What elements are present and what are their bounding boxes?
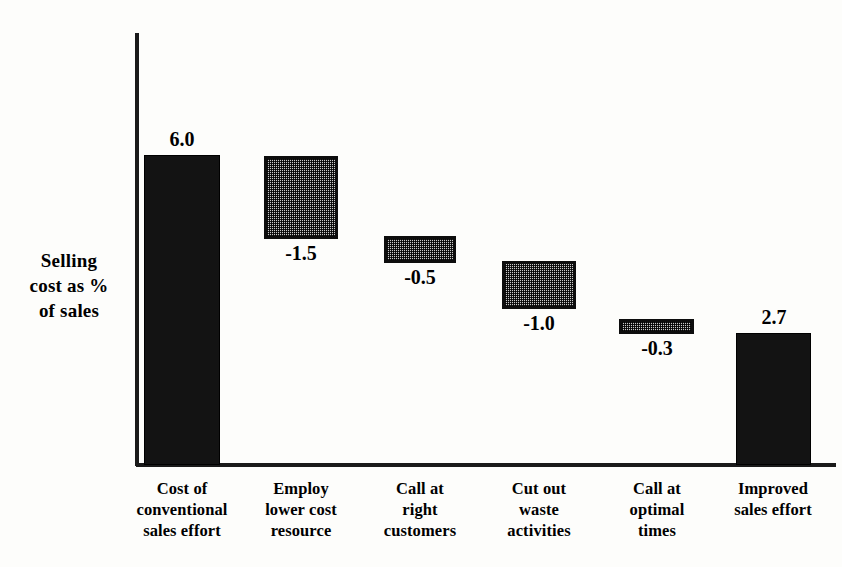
value-label-4: -0.3 xyxy=(615,338,699,358)
value-label-5: 2.7 xyxy=(732,307,816,327)
bar-cost-of-conventional-sales-effort xyxy=(144,155,220,465)
bar-cut-out-waste-activities xyxy=(502,261,576,309)
value-label-0: 6.0 xyxy=(140,129,224,149)
category-label-5-line-0: Improved xyxy=(703,478,842,499)
bar-employ-lower-cost-resource xyxy=(264,156,338,239)
waterfall-chart: Selling cost as % of sales 6.0-1.5-0.5-1… xyxy=(0,0,842,567)
plot-area: 6.0-1.5-0.5-1.0-0.32.7Cost ofconventiona… xyxy=(0,0,842,567)
value-label-3: -1.0 xyxy=(497,313,581,333)
category-label-5: Improvedsales effort xyxy=(703,478,842,520)
bar-call-at-right-customers xyxy=(384,236,456,263)
bar-improved-sales-effort xyxy=(736,333,811,465)
category-label-5-line-1: sales effort xyxy=(703,499,842,520)
category-label-4-line-2: times xyxy=(587,520,727,541)
value-label-2: -0.5 xyxy=(378,267,462,287)
bar-call-at-optimal-times xyxy=(619,319,694,334)
value-label-1: -1.5 xyxy=(259,243,343,263)
